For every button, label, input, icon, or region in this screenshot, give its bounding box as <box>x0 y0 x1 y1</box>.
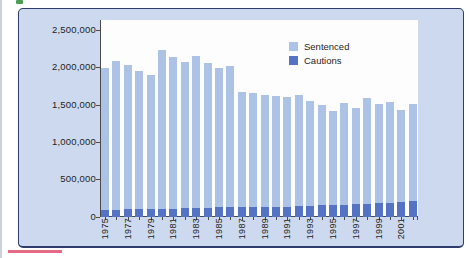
y-axis-tick-label: 1,500,000 <box>19 99 96 110</box>
bar-cautions <box>340 205 348 217</box>
bar-cautions <box>306 206 314 217</box>
x-axis-tick-label: 1977 <box>122 218 134 250</box>
bar-sentenced <box>238 92 246 217</box>
bar-sentenced <box>112 61 120 217</box>
bar-sentenced <box>249 93 257 217</box>
x-axis-tick-mark <box>299 217 300 220</box>
y-axis-tick-label: 2,500,000 <box>19 24 96 35</box>
bar-sentenced <box>352 108 360 217</box>
x-axis-tick-mark <box>390 217 391 220</box>
bar-sentenced <box>101 68 109 217</box>
bar-sentenced <box>318 105 326 217</box>
bar-sentenced <box>169 57 177 217</box>
x-axis-tick-mark <box>185 217 186 220</box>
y-axis-tick-label: 1,000,000 <box>19 136 96 147</box>
x-axis-tick-mark <box>162 217 163 220</box>
x-axis-tick-label: 1989 <box>259 218 271 250</box>
bar-sentenced <box>397 110 405 217</box>
x-axis-tick-mark <box>139 217 140 220</box>
x-axis-tick-label: 1987 <box>236 218 248 250</box>
bar-cautions <box>329 205 337 217</box>
y-axis-tick-mark <box>96 67 100 68</box>
y-axis-tick-mark <box>96 179 100 180</box>
bar-cautions <box>192 208 200 217</box>
x-axis-tick-label: 1991 <box>281 218 293 250</box>
bar-sentenced <box>375 104 383 217</box>
x-axis-tick-label: 1993 <box>304 218 316 250</box>
sentenced-swatch-icon <box>289 42 298 51</box>
bar-cautions <box>249 207 257 217</box>
bar-sentenced <box>363 98 371 217</box>
legend-label: Sentenced <box>304 41 349 52</box>
bar-cautions <box>135 209 143 217</box>
cautions-swatch-icon <box>289 56 298 65</box>
y-axis-tick-mark <box>96 142 100 143</box>
bar-cautions <box>409 201 417 217</box>
bar-cautions <box>204 208 212 217</box>
bar-sentenced <box>226 66 234 217</box>
x-axis-tick-mark <box>253 217 254 220</box>
scanned-chart-page: Sentenced Cautions 197519771979198119831… <box>0 0 472 258</box>
bar-sentenced <box>306 101 314 217</box>
bar-cautions <box>181 208 189 217</box>
x-axis-tick-mark <box>208 217 209 220</box>
bar-sentenced <box>124 65 132 217</box>
bar-cautions <box>101 210 109 217</box>
x-axis-tick-mark <box>344 217 345 220</box>
chart-legend: Sentenced Cautions <box>289 41 349 69</box>
bar-cautions <box>295 206 303 217</box>
bar-cautions <box>386 203 394 217</box>
bar-cautions <box>158 209 166 217</box>
bar-sentenced <box>386 102 394 217</box>
bar-sentenced <box>295 95 303 217</box>
x-axis-tick-mark <box>417 217 418 220</box>
bar-cautions <box>215 207 223 217</box>
bar-sentenced <box>340 103 348 217</box>
x-axis-tick-mark <box>367 217 368 220</box>
bar-sentenced <box>283 97 291 217</box>
y-axis-tick-label: 0 <box>19 211 96 222</box>
bar-sentenced <box>215 68 223 217</box>
figure-label-fragment <box>16 0 23 4</box>
x-axis-tick-mark <box>413 217 414 220</box>
legend-label: Cautions <box>304 55 342 66</box>
y-axis-tick-label: 2,000,000 <box>19 61 96 72</box>
x-axis-tick-label: 1995 <box>327 218 339 250</box>
bar-sentenced <box>192 56 200 217</box>
legend-item-cautions: Cautions <box>289 55 349 66</box>
y-axis-tick-label: 500,000 <box>19 173 96 184</box>
bar-sentenced <box>147 75 155 217</box>
x-axis-tick-label: 1981 <box>167 218 179 250</box>
bar-cautions <box>124 209 132 217</box>
bar-sentenced <box>261 95 269 217</box>
legend-item-sentenced: Sentenced <box>289 41 349 52</box>
bar-cautions <box>397 202 405 217</box>
x-axis-tick-mark <box>322 217 323 220</box>
y-axis-tick-mark <box>96 30 100 31</box>
plot-area: Sentenced Cautions 197519771979198119831… <box>100 20 418 217</box>
x-axis-tick-mark <box>116 217 117 220</box>
x-axis-tick-label: 2001 <box>395 218 407 250</box>
bar-cautions <box>272 207 280 217</box>
x-axis-tick-label: 1985 <box>213 218 225 250</box>
bar-cautions <box>352 204 360 217</box>
x-axis-tick-label: 1979 <box>145 218 157 250</box>
bar-sentenced <box>409 104 417 217</box>
bar-sentenced <box>135 71 143 217</box>
y-axis-tick-mark <box>96 105 100 106</box>
bar-cautions <box>283 207 291 217</box>
bar-cautions <box>261 207 269 217</box>
x-axis-tick-label: 1975 <box>99 218 111 250</box>
chart-panel: Sentenced Cautions 197519771979198119831… <box>18 8 464 248</box>
bar-cautions <box>238 207 246 217</box>
bar-sentenced <box>272 96 280 217</box>
bar-cautions <box>169 209 177 217</box>
x-axis-tick-mark <box>276 217 277 220</box>
x-axis-tick-label: 1999 <box>373 218 385 250</box>
bar-sentenced <box>158 50 166 217</box>
page-scan-edge <box>0 0 2 258</box>
x-axis-tick-mark <box>230 217 231 220</box>
bar-cautions <box>112 210 120 217</box>
x-axis-tick-label: 1997 <box>350 218 362 250</box>
x-axis-tick-label: 1983 <box>190 218 202 250</box>
